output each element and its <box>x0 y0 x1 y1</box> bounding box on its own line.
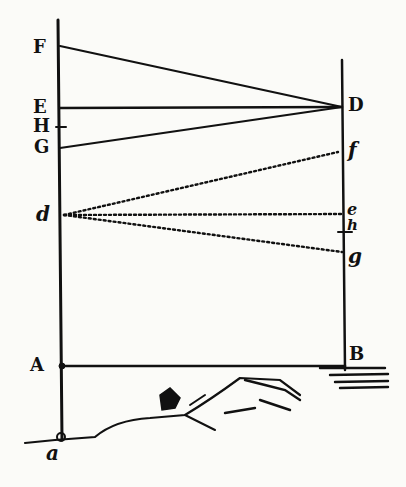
ground-hatch-right <box>320 368 388 388</box>
label-f: f <box>348 140 357 160</box>
ground-hatch <box>225 380 300 413</box>
label-G: G <box>34 138 49 156</box>
point-A <box>59 363 65 369</box>
label-d: d <box>36 204 50 224</box>
line-df <box>64 152 338 215</box>
line-dg <box>64 215 342 252</box>
line-GD <box>60 107 342 148</box>
line-de <box>64 214 342 215</box>
diagram: F E H G d D f e h g A B a <box>0 0 406 487</box>
label-h: h <box>347 218 358 233</box>
diagram-lines <box>0 0 406 487</box>
label-H: H <box>33 117 50 135</box>
label-B: B <box>349 345 364 363</box>
label-g: g <box>348 246 362 266</box>
label-D: D <box>348 96 364 114</box>
label-E: E <box>33 98 47 116</box>
label-F: F <box>33 38 46 56</box>
label-A: A <box>30 356 44 374</box>
line-ED <box>60 107 342 108</box>
left-pole <box>58 20 62 440</box>
label-a: a <box>46 443 59 463</box>
line-FD <box>60 46 342 107</box>
shrub <box>160 388 180 410</box>
